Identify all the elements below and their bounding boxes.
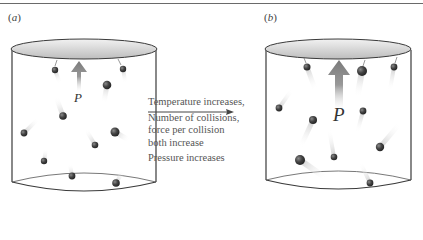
pressure-arrow-b-icon bbox=[328, 60, 350, 110]
pressure-label-b: P bbox=[333, 104, 345, 126]
caption-both-increase: both increase bbox=[148, 137, 232, 150]
caption-force: force per collision bbox=[148, 124, 232, 137]
caption-collisions: Number of collisions, bbox=[148, 112, 232, 125]
caption-pressure: Pressure increases bbox=[148, 152, 232, 165]
pressure-label-a: P bbox=[74, 90, 82, 106]
pressure-arrow-a-icon bbox=[71, 61, 87, 92]
transition-caption: Temperature increases, Number of collisi… bbox=[148, 96, 232, 165]
container-a bbox=[11, 39, 157, 191]
molecules-a bbox=[21, 59, 131, 187]
caption-temperature: Temperature increases, bbox=[148, 96, 232, 109]
